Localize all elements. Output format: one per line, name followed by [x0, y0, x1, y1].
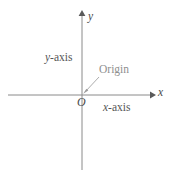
y-axis-label: y-axis	[45, 52, 72, 64]
y-variable-label: y	[88, 11, 93, 23]
x-axis-arrowhead-icon	[150, 92, 156, 99]
x-axis-label: x-axis	[103, 102, 130, 114]
y-axis-arrowhead-icon	[79, 10, 86, 16]
origin-point-label: O	[77, 96, 86, 108]
coordinate-plane-figure: y-axis x-axis y x O Origin	[0, 0, 170, 181]
origin-callout-label: Origin	[99, 64, 129, 76]
x-variable-label: x	[158, 87, 163, 99]
axes-svg	[0, 0, 170, 181]
